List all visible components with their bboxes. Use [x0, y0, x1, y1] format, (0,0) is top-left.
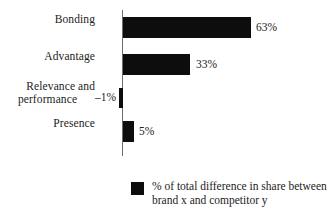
bar-relevance-and-performance	[119, 88, 123, 108]
bar-bonding	[123, 17, 251, 38]
chart-row-relevance-and-performance: Relevance and performance –1%	[0, 84, 334, 114]
category-label-relevance-and-performance: Relevance and performance	[0, 80, 95, 105]
category-label-presence: Presence	[0, 117, 95, 130]
category-label-bonding: Bonding	[0, 13, 95, 26]
bar-presence	[123, 121, 134, 142]
bar-chart: Bonding 63% Advantage 33% Relevance and …	[0, 0, 334, 219]
legend-label-line-1: % of total difference in share between	[152, 180, 327, 192]
chart-legend: % of total difference in share between b…	[131, 180, 327, 207]
bar-advantage	[123, 54, 190, 75]
chart-row-bonding: Bonding 63%	[0, 13, 334, 43]
value-label-bonding: 63%	[256, 20, 277, 34]
value-label-relevance-and-performance: –1%	[84, 90, 116, 104]
legend-label-line-2: brand x and competitor y	[152, 194, 327, 208]
value-label-advantage: 33%	[196, 57, 217, 71]
category-label-advantage: Advantage	[0, 50, 95, 63]
chart-row-presence: Presence 5%	[0, 117, 334, 147]
value-label-presence: 5%	[139, 124, 154, 138]
plot-area: Bonding 63% Advantage 33% Relevance and …	[0, 0, 334, 160]
chart-row-advantage: Advantage 33%	[0, 50, 334, 80]
category-label-line-2: performance	[0, 93, 95, 106]
legend-label: % of total difference in share between b…	[152, 180, 327, 207]
legend-swatch-icon	[131, 182, 144, 195]
